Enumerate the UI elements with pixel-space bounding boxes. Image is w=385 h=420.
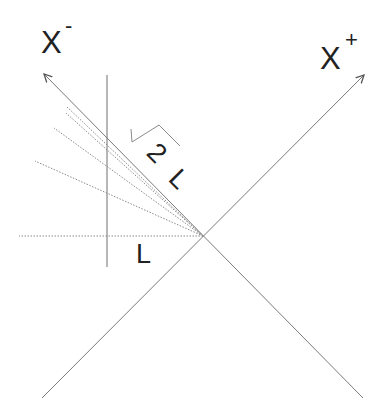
x-minus-label: X -	[41, 13, 72, 60]
sqrt-two-L-label: 2 L	[131, 125, 195, 195]
L-label: L	[136, 239, 151, 269]
x-minus-letter: X	[41, 25, 62, 60]
x-plus-superscript: +	[345, 27, 358, 52]
x-plus-letter: X	[320, 41, 341, 76]
light-cone-diagram: X - X + 2 L L	[0, 0, 385, 420]
sqrt-two-digit: 2	[141, 137, 173, 169]
sqrt-two-L-letter: L	[163, 163, 195, 195]
x-plus-label: X +	[320, 27, 358, 76]
x-minus-superscript: -	[65, 13, 72, 38]
